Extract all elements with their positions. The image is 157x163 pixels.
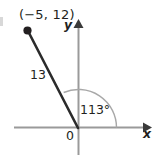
y-axis-arrowhead-icon: [74, 19, 84, 28]
y-axis: [74, 19, 84, 155]
coordinate-plane-svg: [0, 0, 157, 163]
x-axis-label: x: [143, 128, 151, 141]
terminal-point-dot: [23, 26, 31, 34]
x-axis: [14, 123, 152, 133]
origin-label: 0: [66, 130, 74, 143]
y-axis-label: y: [64, 19, 72, 32]
terminal-ray-angle-diagram: (−5, 12) 13 113° 0 x y: [0, 0, 157, 163]
radius-length-label: 13: [30, 69, 46, 82]
angle-measure-label: 113°: [80, 104, 110, 117]
